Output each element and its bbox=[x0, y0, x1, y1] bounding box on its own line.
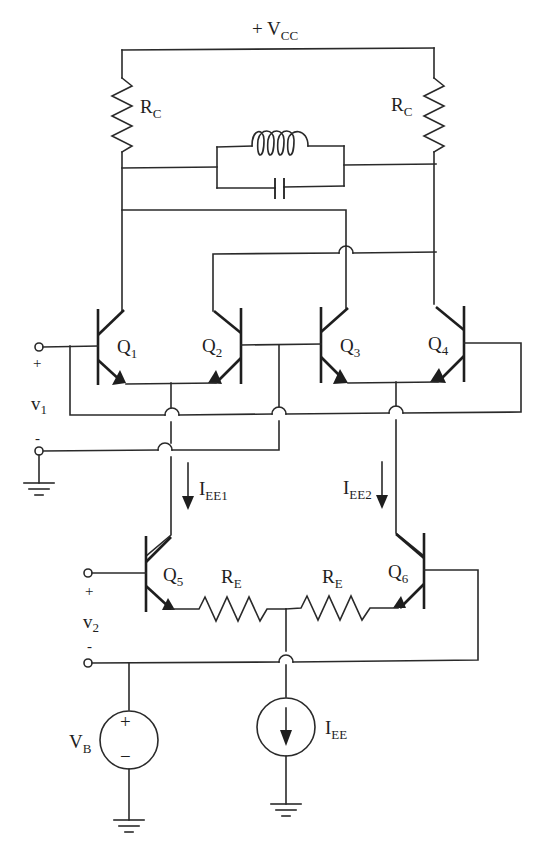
iee-label: IEE bbox=[325, 717, 347, 742]
q6-label: Q6 bbox=[388, 561, 409, 586]
v1-minus-terminal[interactable] bbox=[35, 447, 43, 455]
q1-label: Q1 bbox=[117, 336, 137, 361]
iee2-label: IEE2 bbox=[343, 477, 372, 502]
re-left-label: RE bbox=[221, 566, 242, 591]
v1-minus-wire bbox=[43, 450, 158, 451]
q4-base-return bbox=[403, 343, 521, 413]
current-arrow-icon bbox=[280, 730, 292, 746]
q2-q3-base-wire bbox=[241, 344, 321, 345]
q2-label: Q2 bbox=[202, 335, 222, 360]
inductor-icon bbox=[252, 131, 308, 155]
vcc-label: + VCC bbox=[252, 18, 298, 43]
iee-current-source bbox=[257, 698, 315, 756]
v2-plus-sign: + bbox=[85, 583, 93, 599]
re-left-resistor bbox=[172, 597, 286, 621]
cross-wire-q2-q4-right bbox=[353, 252, 436, 253]
lc-tank bbox=[122, 131, 436, 199]
wire-hop bbox=[272, 407, 286, 414]
vb-label: VB bbox=[69, 731, 92, 756]
gilbert-cell-schematic: + VCC RC RC bbox=[0, 0, 541, 850]
cross-wire-q2-q4 bbox=[213, 253, 339, 311]
q2-q3-base-to-minus bbox=[172, 421, 279, 450]
ground-icon bbox=[114, 820, 144, 832]
wire-hop bbox=[279, 655, 293, 662]
v1-plus-sign: + bbox=[33, 355, 41, 371]
capacitor-icon bbox=[275, 178, 284, 199]
q3-q4-emitter-node bbox=[348, 382, 438, 383]
v2-plus-terminal[interactable] bbox=[84, 569, 92, 577]
vcc-rail bbox=[122, 48, 434, 78]
vb-plus-sign: + bbox=[120, 711, 131, 732]
q5-label: Q5 bbox=[163, 564, 183, 589]
vb-minus-sign: − bbox=[120, 746, 131, 767]
v1-label: v1 bbox=[31, 393, 47, 417]
q3-label: Q3 bbox=[340, 335, 360, 360]
v2-minus-terminal[interactable] bbox=[84, 659, 92, 667]
emitter-arrow-icon bbox=[393, 596, 406, 608]
re-right-label: RE bbox=[322, 566, 343, 591]
q1-q4-base-bus-3 bbox=[286, 413, 389, 414]
emitter-arrow-icon bbox=[208, 370, 222, 384]
iee1-label: IEE1 bbox=[199, 478, 228, 503]
q1-q4-base-bus-2 bbox=[179, 414, 272, 415]
iee2-arrow-icon bbox=[376, 462, 388, 509]
v2-minus-wire bbox=[92, 662, 279, 663]
re-right-resistor bbox=[286, 596, 398, 620]
v1-plus-terminal[interactable] bbox=[35, 343, 43, 351]
wire-hop bbox=[158, 443, 172, 450]
rc-left-resistor bbox=[112, 78, 132, 152]
emitter-arrow-icon bbox=[112, 370, 126, 385]
q4-label: Q4 bbox=[428, 333, 449, 358]
v2-minus-sign: - bbox=[87, 638, 92, 654]
v1-minus-sign: - bbox=[35, 430, 40, 446]
rc-left-label: RC bbox=[140, 96, 161, 121]
ground-icon bbox=[271, 804, 301, 816]
cross-wire-q1-q3 bbox=[122, 210, 346, 246]
wire-hop bbox=[389, 406, 403, 413]
ground-icon bbox=[24, 483, 54, 495]
q6-base-return bbox=[293, 570, 478, 662]
rc-right-label: RC bbox=[391, 94, 412, 119]
q6-collector-wire bbox=[396, 420, 423, 555]
v2-label: v2 bbox=[83, 611, 99, 635]
rc-right-resistor bbox=[424, 78, 444, 152]
iee1-arrow-icon bbox=[182, 463, 194, 510]
wire-hop bbox=[165, 408, 179, 415]
